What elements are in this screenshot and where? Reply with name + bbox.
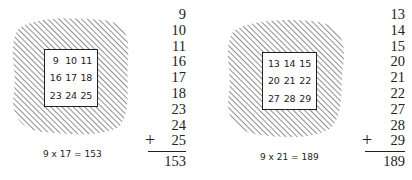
- grid-cell: 23: [50, 90, 62, 101]
- grid-cell: 15: [299, 58, 311, 69]
- grid-cell: 28: [284, 93, 296, 104]
- grid-cell: 10: [65, 55, 77, 66]
- addend: 13: [375, 7, 405, 23]
- sum-total: 189: [375, 152, 405, 170]
- addend: 16: [158, 54, 186, 70]
- addend: 20: [375, 54, 405, 70]
- addend: 27: [375, 102, 405, 118]
- addend: 11: [158, 39, 186, 55]
- addend: 18: [158, 86, 186, 102]
- addend: + 29: [375, 133, 405, 149]
- formula-caption: 9 x 21 = 189: [260, 152, 319, 162]
- grid-cell: 17: [65, 72, 77, 83]
- sum-total: 153: [158, 152, 186, 170]
- plus-sign: +: [145, 133, 155, 149]
- addition-column: 9 10 11 16 17 18 23 24 + 25 153: [158, 7, 186, 170]
- number-grid: 13 14 15 20 21 22 27 28 29: [262, 52, 317, 110]
- addend: 23: [158, 102, 186, 118]
- grid-cell: 21: [284, 75, 296, 86]
- grid-cell: 16: [50, 72, 62, 83]
- grid-cell: 20: [268, 75, 280, 86]
- addend: 24: [158, 118, 186, 134]
- grid-cell: 18: [80, 72, 92, 83]
- addend: 9: [158, 7, 186, 23]
- grid-cell: 27: [268, 93, 280, 104]
- grid-cell: 14: [284, 58, 296, 69]
- addend: 10: [158, 23, 186, 39]
- addend: 15: [375, 39, 405, 55]
- addend: 17: [158, 70, 186, 86]
- grid-cell: 11: [80, 55, 92, 66]
- panel-1: 9 10 11 16 17 18 23 24 25 9 x 17 = 153 9…: [0, 0, 205, 180]
- addition-column: 13 14 15 20 21 22 27 28 + 29 189: [375, 7, 405, 170]
- addend: 21: [375, 70, 405, 86]
- panel-2: 13 14 15 20 21 22 27 28 29 9 x 21 = 189 …: [205, 0, 412, 180]
- addend: 28: [375, 118, 405, 134]
- grid-cell: 22: [299, 75, 311, 86]
- grid-cell: 24: [65, 90, 77, 101]
- grid-cell: 13: [268, 58, 280, 69]
- grid-cell: 25: [80, 90, 92, 101]
- plus-sign: +: [362, 133, 372, 149]
- addend: 22: [375, 86, 405, 102]
- number-grid: 9 10 11 16 17 18 23 24 25: [44, 49, 98, 107]
- grid-cell: 9: [53, 55, 59, 66]
- grid-cell: 29: [299, 93, 311, 104]
- addend: + 25: [158, 133, 186, 149]
- addend: 14: [375, 23, 405, 39]
- formula-caption: 9 x 17 = 153: [43, 149, 102, 159]
